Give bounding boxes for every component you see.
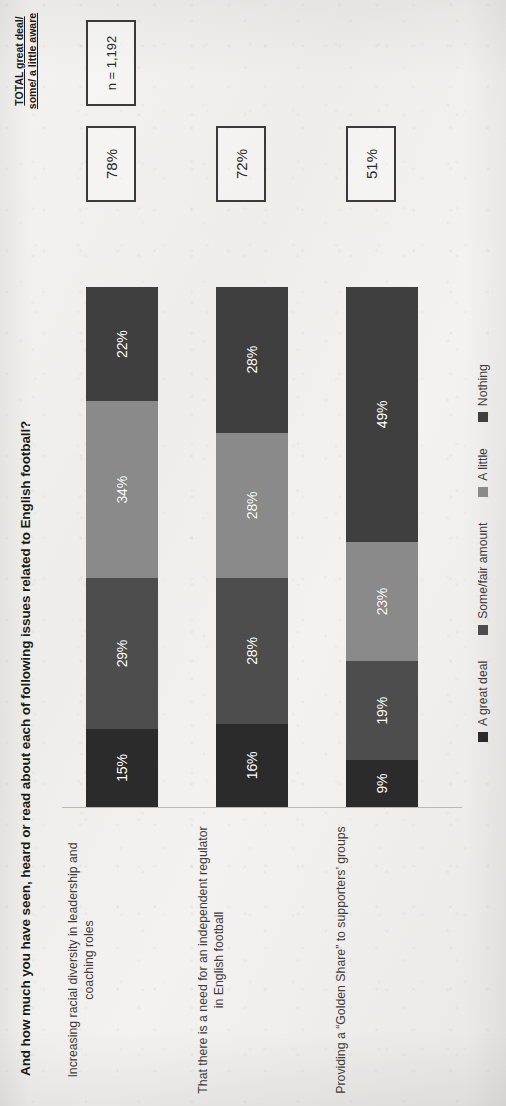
bar-segment-nothing[interactable]: 28% <box>216 287 288 433</box>
bar-segment-a-great-deal[interactable]: 9% <box>346 760 418 807</box>
segment-value-label: 34% <box>114 476 130 503</box>
segment-value-label: 16% <box>244 752 260 779</box>
bar-segment-nothing[interactable]: 49% <box>346 287 418 542</box>
segment-value-label: 28% <box>244 492 260 519</box>
chart-title: And how much you have seen, heard or rea… <box>18 76 33 1076</box>
bar-segment-some-fair-amount[interactable]: 28% <box>216 578 288 724</box>
legend-swatch-icon <box>478 487 488 497</box>
segment-value-label: 22% <box>114 331 130 358</box>
total-column-header: TOTAL great deal/ some/ a little aware <box>13 9 39 113</box>
bar-segment-a-great-deal[interactable]: 16% <box>216 724 288 807</box>
total-value-box-2: 51% <box>346 126 396 202</box>
legend-item-nothing[interactable]: Nothing <box>476 364 490 422</box>
bar-segment-a-little[interactable]: 28% <box>216 433 288 579</box>
legend-swatch-icon <box>478 732 488 742</box>
chart-slide: And how much you have seen, heard or rea… <box>0 0 506 1106</box>
bar-segment-a-little[interactable]: 34% <box>86 401 158 578</box>
plot-area: 15% 29% 34% 22% 16% 28% <box>62 260 462 808</box>
legend-label: Some/fair amount <box>476 523 490 619</box>
total-value-box-1: 72% <box>216 126 266 202</box>
segment-value-label: 28% <box>244 637 260 664</box>
bar-segment-nothing[interactable]: 22% <box>86 287 158 401</box>
segment-value-label: 19% <box>374 697 390 724</box>
category-label-2: Providing a “Golden Share” to supporters… <box>334 826 350 1094</box>
legend-item-a-little[interactable]: A little <box>476 448 490 497</box>
bar-segment-some-fair-amount[interactable]: 29% <box>86 578 158 729</box>
chart-legend: A great deal Some/fair amount A little N… <box>476 0 490 1106</box>
bar-segment-a-great-deal[interactable]: 15% <box>86 729 158 807</box>
bar-row: 16% 28% 28% 28% <box>216 287 288 807</box>
segment-value-label: 23% <box>374 588 390 615</box>
category-label-0: Increasing racial diversity in leadershi… <box>66 826 97 1094</box>
legend-label: A little <box>476 448 490 481</box>
rotated-slide-wrapper: And how much you have seen, heard or rea… <box>0 0 506 1106</box>
base-size-box: n = 1,192 <box>86 20 136 106</box>
segment-value-label: 49% <box>374 401 390 428</box>
category-label-1: That there is a need for an independent … <box>196 826 227 1094</box>
total-value-box-0: 78% <box>86 126 136 202</box>
bar-segment-a-little[interactable]: 23% <box>346 542 418 662</box>
legend-swatch-icon <box>478 625 488 635</box>
legend-label: A great deal <box>476 661 490 726</box>
legend-item-a-great-deal[interactable]: A great deal <box>476 661 490 742</box>
bar-row: 15% 29% 34% 22% <box>86 287 158 807</box>
bar-row: 9% 19% 23% 49% <box>346 287 418 807</box>
bar-segment-some-fair-amount[interactable]: 19% <box>346 661 418 760</box>
legend-item-some-fair-amount[interactable]: Some/fair amount <box>476 523 490 635</box>
segment-value-label: 28% <box>244 346 260 373</box>
legend-label: Nothing <box>476 364 490 406</box>
axis-baseline <box>62 807 462 808</box>
legend-swatch-icon <box>478 412 488 422</box>
segment-value-label: 15% <box>114 754 130 781</box>
segment-value-label: 29% <box>114 640 130 667</box>
segment-value-label: 9% <box>374 774 390 794</box>
